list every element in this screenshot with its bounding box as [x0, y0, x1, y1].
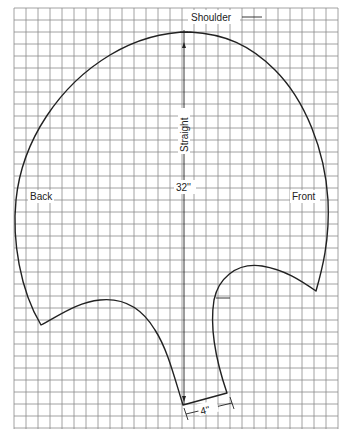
- pattern-diagram: Shoulder Straight 32'' Back Front 4'': [0, 0, 348, 442]
- straight-label: Straight: [179, 117, 190, 152]
- front-label: Front: [292, 191, 316, 202]
- shoulder-label: Shoulder: [191, 12, 232, 23]
- length-label: 32'': [176, 182, 191, 193]
- grain-arrow-bottom-icon: [182, 396, 186, 402]
- width-dimension: 4'': [184, 397, 234, 420]
- grid: [14, 8, 338, 429]
- back-label: Back: [30, 191, 53, 202]
- grain-arrow-top-icon: [182, 42, 186, 48]
